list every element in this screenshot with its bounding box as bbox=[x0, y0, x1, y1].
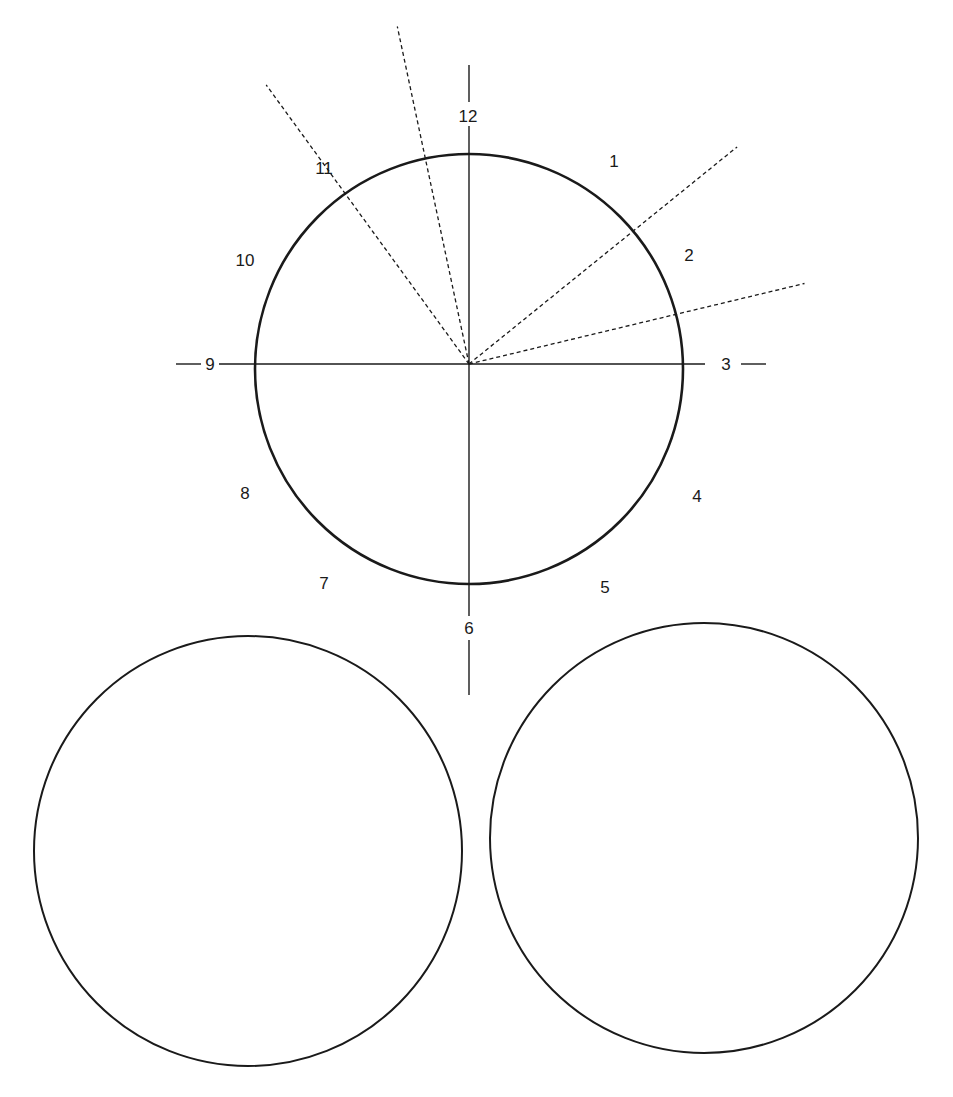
hour-label-7: 7 bbox=[319, 574, 328, 593]
hour-label-2: 2 bbox=[684, 246, 693, 265]
blank-circle-right bbox=[490, 623, 918, 1053]
hour-label-12: 12 bbox=[459, 107, 478, 126]
hour-label-8: 8 bbox=[240, 484, 249, 503]
hour-label-3: 3 bbox=[721, 355, 730, 374]
hour-label-4: 4 bbox=[692, 487, 701, 506]
hour-label-5: 5 bbox=[600, 578, 609, 597]
hour-labels: 12 1 2 3 4 5 6 7 8 9 10 11 bbox=[205, 102, 730, 640]
hour-label-11: 11 bbox=[315, 159, 333, 178]
ray-near-11 bbox=[266, 85, 469, 364]
clock-face: 12 1 2 3 4 5 6 7 8 9 10 11 bbox=[176, 27, 805, 696]
hour-label-9: 9 bbox=[205, 355, 214, 374]
ray-near-12 bbox=[397, 27, 469, 365]
hour-label-1: 1 bbox=[609, 152, 618, 171]
hour-label-6: 6 bbox=[464, 619, 473, 638]
clock-diagram: 12 1 2 3 4 5 6 7 8 9 10 11 bbox=[0, 0, 953, 1097]
ray-near-2 bbox=[469, 147, 737, 364]
dashed-rays bbox=[266, 27, 804, 365]
hour-label-10: 10 bbox=[236, 251, 255, 270]
blank-circle-left bbox=[34, 636, 462, 1066]
